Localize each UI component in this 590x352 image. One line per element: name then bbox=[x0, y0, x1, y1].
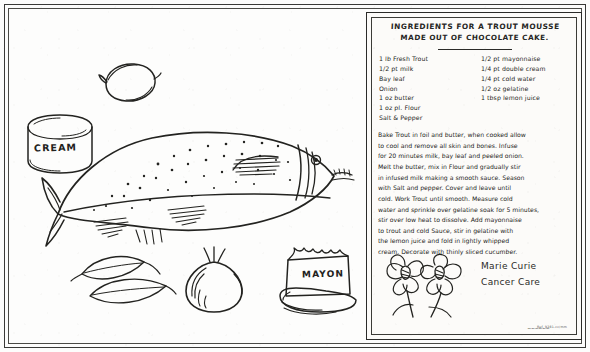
trout-fish-icon bbox=[40, 118, 360, 248]
signature-line-1: Marie Curie bbox=[481, 259, 540, 275]
recipe-title-line-1: INGREDIENTS FOR A TROUT MOUSSE bbox=[377, 21, 574, 32]
serial-mark: Ref. 9281-cc/mm bbox=[537, 325, 567, 329]
daffodil-icon bbox=[383, 253, 467, 319]
ingredients-list: 1 lb Fresh Trout 1/2 pt milk Bay leaf On… bbox=[377, 54, 573, 123]
mayonnaise-jar-label: MAYON bbox=[302, 268, 344, 279]
method-line: cold. Work Trout until smooth. Measure c… bbox=[378, 194, 573, 205]
signature: Marie Curie Cancer Care bbox=[481, 259, 540, 291]
illustration-panel: CREAM bbox=[10, 10, 360, 340]
list-item: Bay leaf bbox=[379, 74, 472, 84]
list-item: 1/2 oz gelatine bbox=[480, 84, 573, 94]
daffodil-decoration bbox=[383, 253, 467, 319]
method-text: Bake Trout in foil and butter, when cook… bbox=[377, 130, 573, 258]
method-line: for 20 minutes milk, bay leaf and peeled… bbox=[378, 151, 573, 162]
method-line: stir over low heat to dissolve. Add mayo… bbox=[378, 215, 573, 226]
title-divider bbox=[438, 49, 512, 50]
lemon-icon bbox=[94, 54, 164, 112]
list-item: Onion bbox=[379, 84, 472, 94]
ingredients-column-left: 1 lb Fresh Trout 1/2 pt milk Bay leaf On… bbox=[379, 54, 472, 123]
method-line: to cool and remove all skin and bones. I… bbox=[378, 141, 573, 152]
ingredients-column-right: 1/2 pt mayonnaise 1/4 pt double cream 1/… bbox=[481, 54, 574, 123]
onion-icon bbox=[176, 246, 252, 316]
list-item: 1/2 pt milk bbox=[379, 64, 472, 74]
list-item: 1 tbsp lemon juice bbox=[480, 93, 573, 103]
list-item: 1/2 pt mayonnaise bbox=[480, 54, 573, 64]
bay-leaves-icon bbox=[68, 244, 178, 320]
method-line: in infused milk making a smooth sauce. S… bbox=[378, 173, 573, 184]
list-item: Salt & Pepper bbox=[379, 113, 472, 123]
method-line: water and sprinkle over gelatine soak fo… bbox=[378, 205, 573, 216]
list-item: 1/4 pt cold water bbox=[480, 74, 573, 84]
mayonnaise-jar-icon bbox=[272, 242, 364, 320]
list-item: 1 oz pl. Flour bbox=[379, 103, 472, 113]
method-line: Bake Trout in foil and butter, when cook… bbox=[378, 130, 573, 141]
list-item: 1 lb Fresh Trout bbox=[379, 54, 472, 64]
method-line: Melt the butter, mix in Flour and gradua… bbox=[378, 162, 573, 173]
list-item: 1/4 pt double cream bbox=[480, 64, 573, 74]
method-line: with Salt and pepper. Cover and leave un… bbox=[378, 183, 573, 194]
recipe-card-scan: CREAM bbox=[0, 0, 590, 352]
recipe-title: INGREDIENTS FOR A TROUT MOUSSE MADE OUT … bbox=[376, 21, 573, 44]
recipe-title-line-2: MADE OUT OF CHOCOLATE CAKE. bbox=[376, 32, 573, 43]
recipe-panel: INGREDIENTS FOR A TROUT MOUSSE MADE OUT … bbox=[366, 12, 582, 340]
method-line: the lemon juice and fold in lightly whip… bbox=[378, 236, 573, 247]
method-line: to trout and cold Sauce, stir in gelatin… bbox=[378, 226, 573, 237]
signature-line-2: Cancer Care bbox=[481, 275, 540, 291]
list-item: 1 oz butter bbox=[379, 93, 472, 103]
